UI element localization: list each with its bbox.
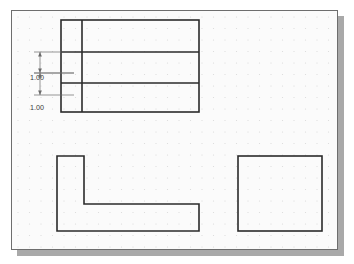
dimension-label: 1.00 bbox=[30, 73, 44, 82]
cad-drawing-screen: 1.001.00 bbox=[0, 0, 354, 264]
drawing-sheet[interactable]: 1.001.00 bbox=[11, 10, 338, 250]
dimension-label: 1.00 bbox=[30, 103, 44, 112]
side-view-rectangle[interactable] bbox=[238, 156, 322, 231]
drawing-geometry-layer[interactable]: 1.001.00 bbox=[12, 11, 337, 249]
upper-vertical-dimension[interactable]: 1.00 bbox=[30, 52, 74, 82]
dimension-arrowhead bbox=[38, 52, 42, 57]
dimension-arrowhead bbox=[38, 91, 42, 96]
front-view-l-shape[interactable] bbox=[57, 156, 199, 231]
